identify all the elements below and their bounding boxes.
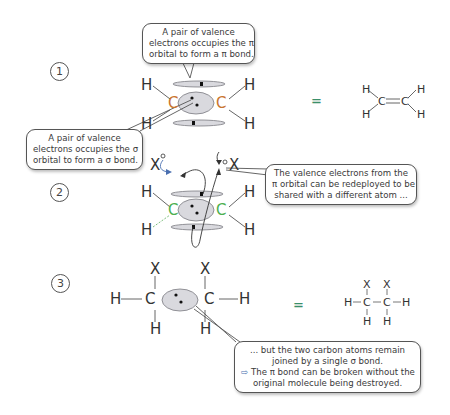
step3-hydrogen-far-right: H xyxy=(239,292,250,307)
step3-substituent-right: X xyxy=(200,262,210,277)
step-number-3: 3 xyxy=(51,274,70,293)
callout-remains-line-2: joined by a single σ bond. xyxy=(241,356,414,367)
callout-sigma-bond: A pair of valence electrons occupies the… xyxy=(26,129,143,170)
step3-carbon-right: C xyxy=(204,292,214,307)
step1-hydrogen-top-right: H xyxy=(244,78,255,93)
step-number-1: 1 xyxy=(50,62,69,81)
callout-sigma-remains: ... but the two carbon atoms remain join… xyxy=(234,341,421,393)
step1-hydrogen-bottom-left: H xyxy=(141,117,152,132)
step3-hydrogen-bottom-left: H xyxy=(150,322,161,337)
step2-hydrogen-top-right: H xyxy=(244,185,255,200)
substituted-ethane-structural-formula xyxy=(353,289,401,315)
ethane-h-bottom-left: H xyxy=(363,316,371,327)
step2-hydrogen-bottom-right: H xyxy=(244,223,255,238)
step2-carbon-right: C xyxy=(216,203,226,218)
step3-equals-sign: = xyxy=(293,297,304,312)
step3-hydrogen-far-left: H xyxy=(110,292,121,307)
step2-hydrogen-bottom-left: H xyxy=(141,223,152,238)
ethene-c-right: C xyxy=(401,96,409,107)
ethane-h-far-right: H xyxy=(402,297,410,308)
callout-sigma-line-3: orbital to form a σ bond. xyxy=(33,155,136,166)
callout-remains-line-3-text: The π bond can be broken without the xyxy=(251,367,415,377)
step3-hydrogen-bottom-right: H xyxy=(200,322,211,337)
ethene-h-top-left: H xyxy=(362,84,370,95)
step-number-2: 2 xyxy=(50,183,69,202)
step2-substituent-right: X xyxy=(229,158,239,173)
callout-sigma-line-2: electrons occupies the σ xyxy=(33,144,136,155)
step1-hydrogen-top-left: H xyxy=(141,78,152,93)
ethane-x-left: X xyxy=(363,279,371,290)
ethene-c-left: C xyxy=(378,96,386,107)
ethane-c-left: C xyxy=(363,297,371,308)
ethene-h-bottom-right: H xyxy=(417,109,425,120)
callout-redeploy: The valence electrons from the π orbital… xyxy=(265,164,417,205)
step2-hydrogen-top-left: H xyxy=(141,185,152,200)
ethane-c-right: C xyxy=(383,297,391,308)
step1-hydrogen-bottom-right: H xyxy=(244,117,255,132)
callout-pi-line-3: orbital to form a π bond. xyxy=(149,49,248,60)
ethane-h-far-left: H xyxy=(344,297,352,308)
callout-redeploy-line-2: π orbital can be redeployed to be xyxy=(272,179,410,190)
callout-redeploy-line-1: The valence electrons from the xyxy=(272,168,410,179)
step1-carbon-left: C xyxy=(168,96,178,111)
ethene-h-bottom-left: H xyxy=(362,109,370,120)
ethene-h-top-right: H xyxy=(417,84,425,95)
step2-carbon-left: C xyxy=(168,203,178,218)
callout-remains-line-3: ⇨ The π bond can be broken without the xyxy=(241,367,414,378)
step2-substituent-left: X xyxy=(150,158,160,173)
callout-remains-line-1: ... but the two carbon atoms remain xyxy=(241,345,414,356)
step3-carbon-left: C xyxy=(145,292,155,307)
callout-remains-line-4: original molecule being destroyed. xyxy=(241,378,414,389)
step1-equals-sign: = xyxy=(311,93,322,108)
step1-carbon-right: C xyxy=(216,96,226,111)
callout-pi-line-2: electrons occupies the π xyxy=(149,38,248,49)
step-3-molecule xyxy=(121,276,238,322)
step3-substituent-left: X xyxy=(150,262,160,277)
ethane-h-bottom-right: H xyxy=(383,316,391,327)
callout-sigma-line-1: A pair of valence xyxy=(33,133,136,144)
ethane-x-right: X xyxy=(383,279,391,290)
implication-arrow-icon: ⇨ xyxy=(241,367,248,377)
callout-pi-line-1: A pair of valence xyxy=(149,27,248,38)
callout-pi-bond: A pair of valence electrons occupies the… xyxy=(142,23,255,64)
callout-redeploy-line-3: shared with a different atom ... xyxy=(272,190,410,201)
step-1-molecule xyxy=(153,81,245,126)
